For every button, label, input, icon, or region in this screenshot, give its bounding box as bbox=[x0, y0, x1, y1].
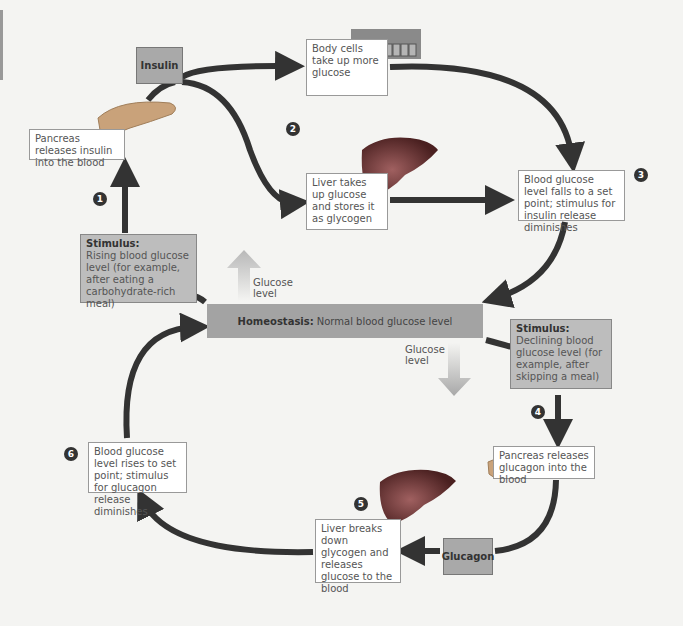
step-4-box: Pancreas releases glucagon into the bloo… bbox=[493, 446, 595, 479]
homeostasis-label-bold: Homeostasis: bbox=[238, 316, 314, 327]
stimulus-declining-title: Stimulus: bbox=[516, 323, 606, 335]
homeostasis-label: Normal blood glucose level bbox=[317, 316, 453, 327]
step-number-5: 5 bbox=[354, 497, 368, 511]
liver-icon-2 bbox=[380, 470, 456, 524]
step-2-body-cells-box: Body cells take up more glucose bbox=[306, 39, 388, 96]
step-2-liver-box: Liver takes up glucose and stores it as … bbox=[306, 173, 388, 230]
stimulus-declining-box: Stimulus: Declining blood glucose level … bbox=[510, 319, 612, 389]
glucose-level-down-label: Glucose level bbox=[405, 344, 445, 366]
glucose-level-up-label: Glucose level bbox=[253, 277, 293, 299]
glucagon-label: Glucagon bbox=[443, 538, 493, 575]
stimulus-declining-text: Declining blood glucose level (for examp… bbox=[516, 335, 602, 382]
step-1-box: Pancreas releases insulin into the blood bbox=[29, 129, 125, 160]
step-number-2: 2 bbox=[286, 122, 300, 136]
stimulus-rising-title: Stimulus: bbox=[86, 238, 191, 250]
step-number-1: 1 bbox=[93, 192, 107, 206]
step-3-box: Blood glucose level falls to a set point… bbox=[518, 170, 625, 221]
stimulus-rising-box: Stimulus: Rising blood glucose level (fo… bbox=[80, 234, 197, 303]
step-number-3: 3 bbox=[634, 168, 648, 182]
step-number-4: 4 bbox=[531, 405, 545, 419]
homeostasis-bar: Homeostasis: Normal blood glucose level bbox=[207, 304, 483, 338]
insulin-label: Insulin bbox=[136, 47, 183, 84]
step-number-6: 6 bbox=[64, 447, 78, 461]
step-6-box: Blood glucose level rises to set point; … bbox=[88, 442, 187, 493]
stimulus-rising-text: Rising blood glucose level (for example,… bbox=[86, 250, 189, 309]
step-5-box: Liver breaks down glycogen and releases … bbox=[315, 519, 401, 583]
